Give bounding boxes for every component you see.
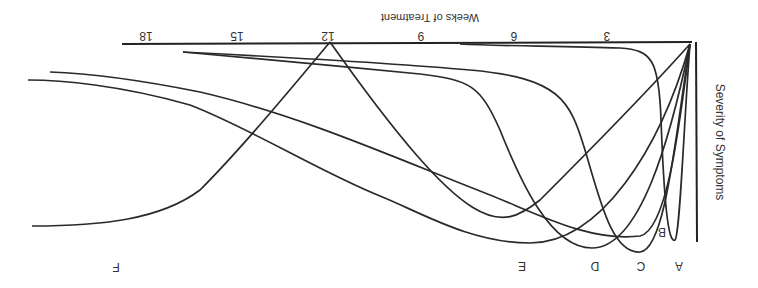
- label-b: B: [658, 225, 666, 239]
- x-tick-12: 12: [321, 29, 335, 43]
- x-tick-3: 3: [603, 29, 610, 43]
- x-tick-15: 15: [230, 29, 244, 43]
- y-axis-title: Severity of Symptoms: [713, 84, 727, 201]
- severity-vs-weeks-chart: Weeks of Treatment 3 6 9 12 15 18 Severi…: [0, 0, 758, 288]
- label-c: C: [636, 259, 645, 273]
- x-axis-title: Weeks of Treatment: [381, 12, 479, 24]
- label-f: F: [112, 260, 119, 274]
- label-e: E: [518, 259, 526, 273]
- x-tick-6: 6: [510, 29, 517, 43]
- x-tick-9: 9: [417, 29, 424, 43]
- x-tick-18: 18: [139, 29, 153, 43]
- label-d: D: [590, 259, 599, 273]
- label-a: A: [675, 259, 683, 273]
- curve-f: [330, 42, 690, 217]
- curve-b: [50, 44, 690, 237]
- y-axis: [696, 42, 697, 242]
- curve-d: [183, 44, 690, 248]
- curve-f-tail: [32, 42, 330, 226]
